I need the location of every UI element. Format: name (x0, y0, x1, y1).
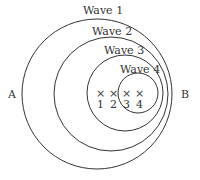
wave-3-label: Wave 3 (104, 44, 144, 57)
wave-1-label: Wave 1 (83, 4, 123, 17)
label-b: B (181, 88, 189, 101)
label-a: A (7, 88, 17, 101)
point-2-label: 2 (110, 98, 117, 111)
wave-4-label: Wave 4 (120, 63, 160, 76)
point-1-label: 1 (97, 98, 104, 111)
wave-diagram: Wave 1 Wave 2 Wave 3 Wave 4 A B × × × × … (0, 0, 200, 180)
wave-2-label: Wave 2 (92, 25, 132, 38)
point-3-label: 3 (123, 98, 130, 111)
point-4-label: 4 (136, 98, 143, 111)
